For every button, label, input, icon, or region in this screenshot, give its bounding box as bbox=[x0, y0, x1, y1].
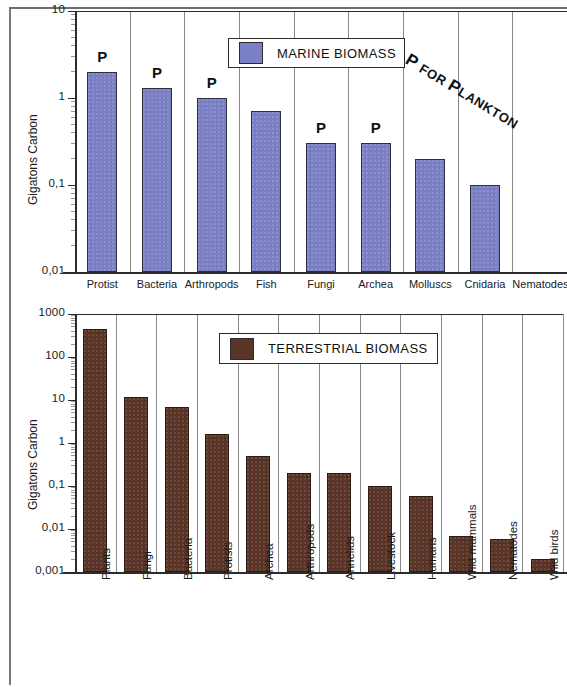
bar-value-label: P bbox=[142, 64, 172, 81]
marine-y-axis-title: Gigatons Carbon bbox=[26, 114, 40, 205]
bar bbox=[124, 397, 148, 572]
category-label: Archea bbox=[348, 278, 403, 290]
terrestrial-biomass-chart: Gigatons Carbon 10001001010,10,010,001 P… bbox=[0, 295, 567, 687]
category-label: Fungi bbox=[141, 551, 153, 580]
category-label: Cnidaria bbox=[458, 278, 513, 290]
marine-legend-swatch bbox=[239, 42, 263, 64]
y-tick-label: 0,001 bbox=[11, 564, 65, 576]
y-tick-label: 0,01 bbox=[11, 264, 65, 276]
gridline-vertical bbox=[512, 11, 513, 272]
gridline-vertical bbox=[441, 314, 442, 572]
terrestrial-legend-label: TERRESTRIAL BIOMASS bbox=[268, 341, 428, 356]
category-label: Fish bbox=[239, 278, 294, 290]
category-label: Arthropods bbox=[184, 278, 239, 290]
terrestrial-plot-top-line bbox=[75, 314, 563, 315]
y-tick-label: 10 bbox=[11, 3, 65, 15]
y-tick-label: 0,1 bbox=[11, 177, 65, 189]
category-label: Wild mammals bbox=[466, 505, 478, 580]
terrestrial-x-axis-line bbox=[63, 572, 567, 574]
category-label: Protists bbox=[222, 542, 234, 580]
terrestrial-legend: TERRESTRIAL BIOMASS bbox=[219, 333, 438, 364]
bar bbox=[142, 88, 172, 272]
y-tick-label: 1 bbox=[11, 435, 65, 447]
y-tick-label: 100 bbox=[11, 349, 65, 361]
terrestrial-legend-swatch bbox=[230, 338, 254, 360]
bar bbox=[306, 143, 336, 272]
bar-value-label: P bbox=[197, 74, 227, 91]
y-tick-label: 1000 bbox=[11, 306, 65, 318]
gridline-vertical bbox=[156, 314, 157, 572]
marine-x-axis-line bbox=[63, 272, 567, 274]
bar bbox=[361, 143, 391, 272]
y-tick-label: 1 bbox=[11, 90, 65, 102]
category-label: Protist bbox=[75, 278, 130, 290]
bar bbox=[415, 159, 445, 272]
bar-value-label: P bbox=[306, 119, 336, 136]
bar bbox=[87, 72, 117, 272]
gridline-vertical bbox=[130, 11, 131, 272]
category-label: Nematodes bbox=[512, 278, 567, 290]
bar bbox=[197, 98, 227, 272]
category-label: Plants bbox=[100, 548, 112, 580]
gridline-vertical bbox=[482, 314, 483, 572]
category-label: Bacteria bbox=[130, 278, 185, 290]
gridline-vertical bbox=[522, 314, 523, 572]
y-tick-label: 0,01 bbox=[11, 521, 65, 533]
marine-legend: MARINE BIOMASS bbox=[228, 38, 405, 68]
terrestrial-y-axis-title: Gigatons Carbon bbox=[26, 419, 40, 510]
marine-legend-label: MARINE BIOMASS bbox=[277, 46, 396, 61]
bar bbox=[470, 185, 500, 272]
gridline-vertical bbox=[197, 314, 198, 572]
gridline-vertical bbox=[116, 314, 117, 572]
category-label: Fungi bbox=[294, 278, 349, 290]
gridline-vertical bbox=[563, 314, 564, 572]
gridline-vertical bbox=[184, 11, 185, 272]
bar-value-label: P bbox=[361, 119, 391, 136]
marine-biomass-chart: Gigatons Carbon 1010,10,01 PPPPP Protist… bbox=[0, 0, 567, 295]
y-tick-label: 0,1 bbox=[11, 478, 65, 490]
category-label: Archea bbox=[263, 544, 275, 580]
marine-y-axis-line bbox=[75, 11, 77, 273]
figure-page: Gigatons Carbon 1010,10,01 PPPPP Protist… bbox=[0, 0, 567, 687]
marine-plot-top-line bbox=[75, 11, 567, 12]
category-label: Molluscs bbox=[403, 278, 458, 290]
bar bbox=[251, 111, 281, 272]
y-tick-label: 10 bbox=[11, 392, 65, 404]
terrestrial-y-axis-line bbox=[75, 314, 77, 572]
gridline-vertical bbox=[458, 11, 459, 272]
category-label: Bacteria bbox=[182, 538, 194, 580]
bar-value-label: P bbox=[87, 48, 117, 65]
bar bbox=[83, 329, 107, 572]
